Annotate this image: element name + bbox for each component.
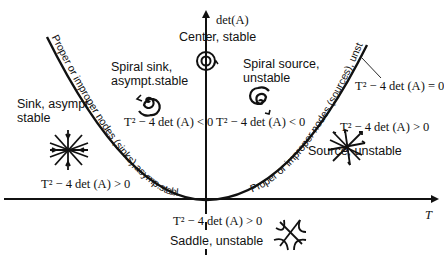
center-label: Center, stable — [179, 30, 256, 44]
spiral-sink-label-2: asympt.stable — [111, 74, 188, 88]
spiral-source-icon — [250, 87, 270, 114]
spiral-sink-icon — [137, 95, 160, 116]
spiral-source-label-1: Spiral source, — [243, 57, 319, 71]
star-sink-icon — [50, 130, 88, 170]
curve-equation: T² − 4 det (A) = 0 — [355, 79, 444, 93]
sink-label-2: stable — [17, 111, 50, 125]
saddle-condition: T² − 4 det (A) > 0 — [173, 214, 262, 228]
source-label: Source, unstable — [308, 144, 402, 158]
spiral-source-condition: T² − 4 det (A) < 0 — [216, 115, 305, 129]
sink-label-1: Sink, asympt. — [17, 97, 92, 111]
saddle-icon — [274, 220, 306, 250]
spiral-sink-condition: T² − 4 det (A) < 0 — [124, 115, 213, 129]
spiral-source-label-2: unstable — [243, 71, 290, 85]
spiral-sink-label-1: Spiral sink, — [111, 60, 172, 74]
source-condition: T² − 4 det (A) > 0 — [340, 120, 429, 134]
sink-condition: T² − 4 det (A) > 0 — [41, 177, 130, 191]
det-axis-label: det(A) — [216, 13, 249, 27]
saddle-label: Saddle, unstable — [170, 234, 263, 248]
t-axis-label: T — [425, 208, 432, 222]
closed-orbit-center-icon — [197, 52, 218, 70]
